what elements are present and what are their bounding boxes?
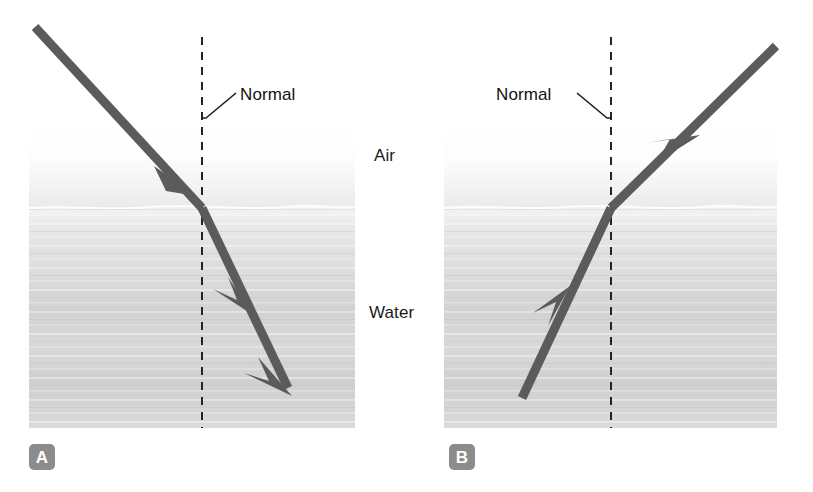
panel-b-normal-leader-line [577, 93, 611, 118]
panel-a-badge: A [29, 444, 55, 470]
panel-b [444, 37, 777, 428]
refraction-diagram-canvas [0, 0, 813, 492]
air-label: Air [374, 146, 395, 166]
panel-a-water-region [29, 206, 355, 428]
panel-b-badge: B [449, 444, 475, 470]
water-label: Water [369, 303, 414, 323]
panel-a [29, 27, 355, 428]
panel-a-normal-leader-line [202, 93, 236, 118]
panel-a-normal-label: Normal [240, 85, 295, 105]
refraction-figure: Air Water Normal Normal A B [0, 0, 813, 492]
panel-b-normal-label: Normal [496, 85, 551, 105]
